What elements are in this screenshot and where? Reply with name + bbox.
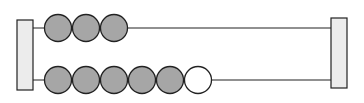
- filled-bead: [73, 67, 100, 94]
- filled-bead: [73, 15, 100, 42]
- right-post: [331, 18, 347, 88]
- filled-bead: [129, 67, 156, 94]
- filled-bead: [101, 15, 128, 42]
- filled-bead: [45, 15, 72, 42]
- abacus-diagram: [0, 0, 364, 103]
- filled-bead: [157, 67, 184, 94]
- empty-bead: [185, 67, 212, 94]
- left-post: [17, 20, 33, 90]
- filled-bead: [101, 67, 128, 94]
- filled-bead: [45, 67, 72, 94]
